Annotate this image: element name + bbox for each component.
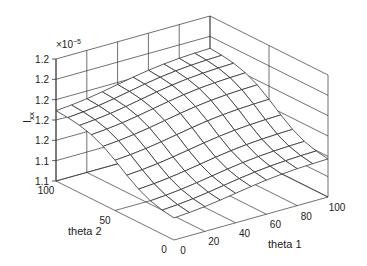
- z-tick-label: 1.2: [35, 95, 49, 106]
- surface-plot: 1.11.11.21.21.21.21.2020406080100050100 …: [0, 0, 367, 266]
- z-exponent-label: ×10−5: [56, 38, 81, 50]
- x-tick-label: 100: [329, 202, 346, 213]
- z-axis-label: Ixx: [21, 112, 36, 123]
- y-tick-label: 100: [38, 185, 55, 196]
- z-tick-label: 1.2: [35, 115, 49, 126]
- x-axis-label: theta 1: [268, 238, 302, 250]
- x-tick-label: 80: [301, 211, 313, 222]
- y-tick-label: 0: [161, 244, 167, 255]
- z-tick-label: 1.2: [35, 54, 49, 65]
- x-tick-label: 20: [208, 236, 220, 247]
- surface-mesh: [56, 48, 328, 218]
- z-tick-label: 1.2: [35, 135, 49, 146]
- x-tick-label: 40: [239, 228, 251, 239]
- x-tick-label: 0: [180, 245, 186, 256]
- y-tick-label: 50: [99, 215, 111, 226]
- z-tick-label: 1.2: [35, 74, 49, 85]
- x-tick-label: 60: [270, 219, 282, 230]
- y-axis-label: theta 2: [68, 225, 102, 237]
- z-tick-label: 1.1: [35, 156, 49, 167]
